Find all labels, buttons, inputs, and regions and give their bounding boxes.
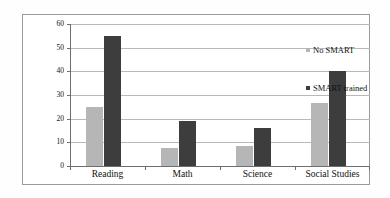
bar-science-no-smart <box>236 146 253 166</box>
bar-math-no-smart <box>161 148 178 166</box>
bar-reading-no-smart <box>86 107 103 166</box>
legend-swatch-icon-dark <box>306 86 310 90</box>
x-axis-label-math: Math <box>145 169 220 179</box>
legend-label: SMART trained <box>313 84 367 93</box>
bar-math-smart-trained <box>179 121 196 166</box>
bar-reading-smart-trained <box>104 36 121 166</box>
chart-figure: 0102030405060 ReadingMathScienceSocial S… <box>0 0 390 198</box>
x-axis-label-social-studies: Social Studies <box>295 169 370 179</box>
x-axis-label-science: Science <box>220 169 295 179</box>
legend-entry-no-smart[interactable]: No SMART <box>306 46 354 55</box>
bar-science-smart-trained <box>254 128 271 166</box>
x-axis-tick-labels: ReadingMathScienceSocial Studies <box>70 169 370 185</box>
x-axis-label-reading: Reading <box>70 169 145 179</box>
legend-entry-smart-trained[interactable]: SMART trained <box>306 84 367 93</box>
bar-social-studies-no-smart <box>311 103 328 166</box>
legend-label: No SMART <box>313 46 354 55</box>
legend-swatch-icon-light <box>306 48 310 52</box>
